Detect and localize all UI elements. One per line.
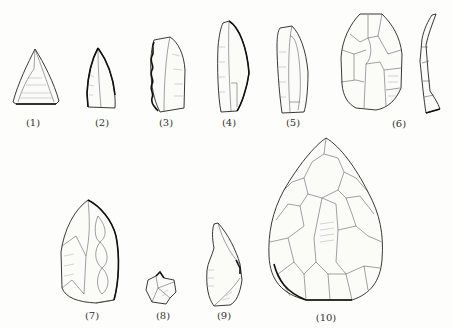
artifact-7-label: (7) (85, 310, 99, 321)
artifact-1-triangular-point (8, 45, 64, 109)
artifact-5-label: (5) (286, 117, 300, 128)
artifact-6-core-face (338, 10, 406, 114)
artifact-4-label: (4) (222, 117, 236, 128)
artifact-5-blade (272, 22, 314, 116)
artifact-3-denticulate-flake (146, 34, 190, 116)
artifact-3-label: (3) (159, 117, 173, 128)
artifact-2-label: (2) (95, 117, 109, 128)
artifact-6-label: (6) (392, 118, 406, 129)
artifact-10-handaxe (264, 134, 390, 306)
artifact-7-retouched-point (56, 196, 124, 308)
artifact-9-flake (202, 220, 248, 310)
artifact-1-label: (1) (26, 117, 40, 128)
artifact-2-pointed-flake (84, 45, 120, 113)
artifact-8-borer (142, 268, 180, 308)
artifact-6-side-profile (414, 11, 448, 115)
artifact-10-label: (10) (316, 312, 337, 323)
artifact-9-label: (9) (217, 310, 231, 321)
artifact-8-label: (8) (156, 310, 170, 321)
artifact-4-backed-blade (213, 17, 255, 115)
